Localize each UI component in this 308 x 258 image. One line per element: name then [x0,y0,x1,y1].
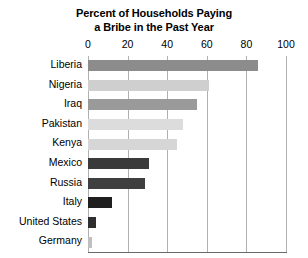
chart-title-line-1: Percent of Households Paying [0,7,308,21]
bar-row: Iraq [0,95,308,115]
bar-rows: LiberiaNigeriaIraqPakistanKenyaMexicoRus… [0,56,308,252]
bar-row: Liberia [0,56,308,76]
bar-iraq [88,99,197,110]
category-label-russia: Russia [50,176,82,188]
x-tick-label-80: 80 [241,38,253,50]
bar-row: Russia [0,174,308,194]
bar-row: Italy [0,193,308,213]
category-label-liberia: Liberia [50,58,82,70]
category-label-mexico: Mexico [49,156,82,168]
x-tick-label-40: 40 [161,38,173,50]
chart-title-line-2: a Bribe in the Past Year [0,21,308,35]
bar-italy [88,197,112,208]
bar-row: Nigeria [0,76,308,96]
category-label-italy: Italy [63,195,82,207]
bar-row: Mexico [0,154,308,174]
x-tick-label-60: 60 [201,38,213,50]
bar-pakistan [88,119,183,130]
bar-chart: Percent of Households Paying a Bribe in … [0,0,308,258]
bar-kenya [88,139,177,150]
x-tick-label-100: 100 [277,38,295,50]
bar-russia [88,178,145,189]
bar-germany [88,237,92,248]
category-label-nigeria: Nigeria [49,78,82,90]
chart-title: Percent of Households Paying a Bribe in … [0,7,308,34]
category-label-iraq: Iraq [64,97,82,109]
bar-liberia [88,60,258,71]
x-tick-label-20: 20 [122,38,134,50]
bar-row: Kenya [0,134,308,154]
category-label-kenya: Kenya [52,136,82,148]
bar-nigeria [88,80,209,91]
category-label-germany: Germany [39,234,82,246]
bar-mexico [88,158,149,169]
axis-baseline [88,252,287,253]
bar-row: Pakistan [0,115,308,135]
bar-row: Germany [0,232,308,252]
bar-united-states [88,217,96,228]
x-axis-tick-labels: 020406080100 [0,38,308,52]
category-label-united-states: United States [19,215,82,227]
x-tick-label-0: 0 [85,38,91,50]
bar-row: United States [0,213,308,233]
category-label-pakistan: Pakistan [42,117,82,129]
